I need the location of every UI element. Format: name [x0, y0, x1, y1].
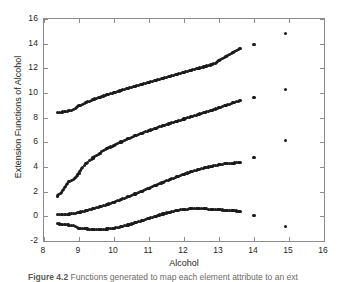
y-axis-tick: [44, 19, 48, 20]
scatter-point: [76, 105, 79, 108]
x-axis-tick-label: 10: [101, 245, 125, 255]
y-axis-tick: [320, 216, 324, 217]
scatter-point: [184, 172, 187, 175]
scatter-point: [163, 180, 166, 183]
x-axis-tick: [324, 237, 325, 241]
x-axis-tick-label: 13: [206, 245, 230, 255]
x-axis-tick: [219, 237, 220, 241]
scatter-point: [198, 112, 201, 115]
y-axis-tick: [44, 167, 48, 168]
x-axis-tick-label: 12: [171, 245, 195, 255]
x-axis-tick-label: 11: [136, 245, 160, 255]
scatter-point: [205, 110, 208, 113]
scatter-point: [107, 202, 110, 205]
x-axis-tick: [184, 237, 185, 241]
scatter-point: [233, 50, 236, 53]
scatter-point: [149, 186, 152, 189]
x-axis-tick-label: 16: [311, 245, 335, 255]
x-axis-tick: [114, 19, 115, 23]
scatter-point: [142, 131, 145, 134]
scatter-point: [68, 212, 71, 215]
scatter-point: [284, 88, 287, 91]
scatter-point: [135, 134, 138, 137]
figure-caption: Figure 4.2 Functions generated to map ea…: [28, 272, 328, 282]
scatter-point: [59, 192, 62, 195]
x-axis-tick: [149, 19, 150, 23]
x-axis-tick: [79, 237, 80, 241]
scatter-point: [128, 137, 131, 140]
scatter-point: [156, 126, 159, 129]
scatter-point: [163, 124, 166, 127]
scatter-point: [121, 197, 124, 200]
x-axis-tick: [254, 237, 255, 241]
y-axis-tick-label: 16: [18, 13, 38, 23]
y-axis-tick: [44, 142, 48, 143]
scatter-point: [170, 74, 173, 77]
scatter-point: [79, 210, 82, 213]
scatter-point: [163, 76, 166, 79]
scatter-point: [184, 70, 187, 73]
scatter-point: [219, 58, 222, 61]
scatter-point: [170, 177, 173, 180]
scatter-point: [191, 115, 194, 118]
y-axis-tick: [44, 192, 48, 193]
x-axis-tick: [114, 237, 115, 241]
scatter-point: [142, 189, 145, 192]
x-axis-title: Alcohol: [43, 258, 325, 268]
scatter-point: [142, 219, 145, 222]
x-axis-tick: [324, 19, 325, 23]
scatter-point: [121, 88, 124, 91]
x-axis-tick: [219, 19, 220, 23]
scatter-point: [284, 139, 287, 142]
scatter-point: [226, 103, 229, 106]
y-axis-tick: [44, 68, 48, 69]
x-axis-tick-label: 9: [66, 245, 90, 255]
scatter-point: [184, 117, 187, 120]
y-axis-tick: [44, 216, 48, 217]
x-axis-tick-label: 15: [276, 245, 300, 255]
scatter-point: [121, 140, 124, 143]
x-axis-tick: [289, 237, 290, 241]
figure-container: -20246810121416 8910111213141516 Alcohol…: [0, 0, 341, 282]
x-axis-tick-label: 8: [31, 245, 55, 255]
y-axis-tick-label: -2: [18, 235, 38, 245]
scatter-point: [149, 80, 152, 83]
scatter-point: [252, 156, 255, 159]
y-axis-tick: [320, 93, 324, 94]
plot-area: [43, 18, 325, 242]
y-axis-tick: [320, 19, 324, 20]
scatter-point: [237, 48, 240, 51]
figure-caption-text: Functions generated to map each element …: [71, 272, 298, 282]
scatter-point: [80, 167, 83, 170]
scatter-point: [237, 210, 240, 213]
y-axis-tick: [44, 118, 48, 119]
y-axis-title: Extension Functions of Alcohol: [13, 37, 23, 197]
scatter-point: [142, 82, 145, 85]
y-axis-tick: [320, 192, 324, 193]
y-axis-tick: [44, 44, 48, 45]
scatter-point: [128, 195, 131, 198]
scatter-point: [237, 100, 240, 103]
scatter-point: [100, 205, 103, 208]
scatter-point: [191, 68, 194, 71]
scatter-point: [114, 200, 117, 203]
scatter-point: [156, 183, 159, 186]
y-axis-tick: [44, 241, 48, 242]
scatter-point: [212, 108, 215, 111]
scatter-point: [135, 84, 138, 87]
scatter-point: [128, 223, 131, 226]
scatter-point: [177, 209, 180, 212]
y-axis-tick: [44, 93, 48, 94]
y-axis-tick: [320, 142, 324, 143]
y-axis-tick-label: 0: [18, 210, 38, 220]
scatter-point: [205, 64, 208, 67]
scatter-point: [156, 78, 159, 81]
scatter-point: [114, 91, 117, 94]
scatter-point: [226, 54, 229, 57]
scatter-point: [156, 214, 159, 217]
scatter-point: [198, 66, 201, 69]
scatter-point: [177, 72, 180, 75]
y-axis-tick: [320, 167, 324, 168]
x-axis-tick: [289, 19, 290, 23]
scatter-point: [219, 106, 222, 109]
